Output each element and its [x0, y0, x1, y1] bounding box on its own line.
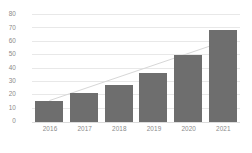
bar-2021[interactable]: [209, 30, 237, 122]
x-axis-baseline: [32, 122, 240, 123]
x-tick-label-2021: 2021: [205, 126, 241, 132]
y-tick-label-40: 40: [0, 65, 16, 71]
y-tick-label-0: 0: [0, 118, 16, 124]
x-axis-labels: 2016 2017 2018 2019 2020 2021: [32, 126, 240, 140]
y-tick-label-70: 70: [0, 25, 16, 31]
bar-2020[interactable]: [174, 55, 202, 122]
x-tick-label-2016: 2016: [32, 126, 68, 132]
y-tick-label-60: 60: [0, 38, 16, 44]
x-tick-label-2018: 2018: [101, 126, 137, 132]
x-tick-label-2020: 2020: [171, 126, 207, 132]
y-tick-label-10: 10: [0, 105, 16, 111]
y-tick-label-20: 20: [0, 91, 16, 97]
y-tick-label-80: 80: [0, 11, 16, 17]
y-tick-label-50: 50: [0, 51, 16, 57]
bar-chart: 80 70 60 50 40 30 20 10 0 2016 2017 2018…: [0, 0, 252, 153]
plot-area: 80 70 60 50 40 30 20 10 0: [32, 15, 240, 122]
bar-2018[interactable]: [105, 85, 133, 122]
bar-2019[interactable]: [139, 73, 167, 122]
bar-2016[interactable]: [35, 101, 63, 122]
x-tick-label-2019: 2019: [136, 126, 172, 132]
bars-layer: [32, 15, 240, 122]
y-tick-label-30: 30: [0, 78, 16, 84]
bar-2017[interactable]: [70, 93, 98, 122]
x-tick-label-2017: 2017: [67, 126, 103, 132]
